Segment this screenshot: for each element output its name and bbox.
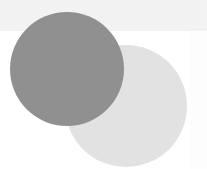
shape-layer: [0, 0, 207, 169]
figure-canvas: [0, 0, 207, 169]
dark-circle: [10, 12, 124, 126]
